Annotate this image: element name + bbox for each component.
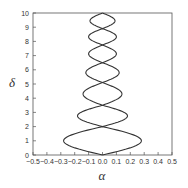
y-tick-label: 7 <box>25 52 29 59</box>
lower-branch-curve <box>64 13 128 155</box>
x-axis-ticks: −0.5−0.4−0.3−0.2−0.10.00.10.20.30.40.5 <box>26 152 177 165</box>
x-tick-label: 0.3 <box>139 158 149 165</box>
x-tick-label: 0.4 <box>153 158 163 165</box>
chart: −0.5−0.4−0.3−0.2−0.10.00.10.20.30.40.5 0… <box>0 0 188 188</box>
x-tick-label: 0.2 <box>125 158 135 165</box>
x-tick-label: −0.1 <box>82 158 96 165</box>
y-tick-label: 4 <box>25 95 29 102</box>
y-tick-label: 0 <box>25 152 29 159</box>
y-axis-ticks: 012345678910 <box>21 10 36 159</box>
x-tick-label: 0.1 <box>112 158 122 165</box>
x-tick-label: −0.2 <box>68 158 82 165</box>
curves <box>64 13 142 155</box>
x-tick-label: −0.4 <box>40 158 54 165</box>
x-tick-label: −0.3 <box>54 158 68 165</box>
x-tick-label: −0.5 <box>26 158 40 165</box>
y-tick-label: 10 <box>21 10 29 17</box>
upper-branch-curve <box>77 13 141 155</box>
y-tick-label: 5 <box>25 81 29 88</box>
x-tick-label: 0.0 <box>98 158 108 165</box>
plot-frame <box>33 13 172 155</box>
y-tick-label: 6 <box>25 66 29 73</box>
y-tick-label: 3 <box>25 109 29 116</box>
y-tick-label: 8 <box>25 38 29 45</box>
y-tick-label: 2 <box>25 123 29 130</box>
x-axis-label: α <box>99 168 107 183</box>
y-axis-label: δ <box>9 75 16 90</box>
x-tick-label: 0.5 <box>167 158 177 165</box>
y-tick-label: 9 <box>25 24 29 31</box>
y-tick-label: 1 <box>25 137 29 144</box>
